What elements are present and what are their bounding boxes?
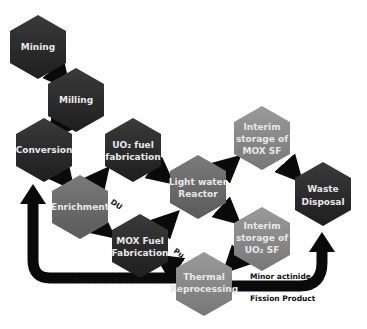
arrow-uo2-lwr (154, 168, 164, 176)
node-interim-storage-mox: Interim storage of MOX SF (234, 106, 290, 170)
label-fission-product: Fission Product (250, 294, 316, 303)
label-du: DU (109, 197, 124, 211)
svg-text:Milling: Milling (59, 95, 93, 105)
node-waste-disposal: Waste Disposal (295, 162, 351, 226)
svg-text:Interim: Interim (243, 221, 280, 231)
svg-text:Light water: Light water (169, 177, 228, 187)
svg-text:MOX SF: MOX SF (243, 146, 282, 156)
label-minor-actinide: Minor actinide (250, 272, 311, 281)
node-thermal-reprocessing: Thermal Reprocessing (170, 252, 238, 316)
node-light-water-reactor: Light water Reactor (169, 155, 228, 219)
svg-text:Thermal: Thermal (183, 272, 225, 282)
svg-text:Reactor: Reactor (178, 189, 218, 199)
label-pu: Pu (172, 246, 186, 260)
svg-text:UO₂ SF: UO₂ SF (245, 245, 280, 255)
svg-text:Waste: Waste (307, 184, 338, 194)
svg-text:Disposal: Disposal (301, 197, 344, 207)
node-interim-storage-uo2: Interim storage of UO₂ SF (234, 207, 290, 271)
arrow-interim-mox-waste (285, 163, 294, 173)
svg-text:storage of: storage of (236, 233, 288, 243)
node-uo2-fuel-fabrication: UO₂ fuel fabrication (105, 118, 161, 182)
svg-text:Mining: Mining (21, 42, 55, 52)
svg-text:Conversion: Conversion (16, 145, 73, 155)
svg-text:Enrichment: Enrichment (51, 202, 110, 212)
svg-text:Reprocessing: Reprocessing (170, 284, 238, 294)
svg-text:fabrication: fabrication (105, 152, 160, 162)
fuel-cycle-diagram: Mining Milling Conversion UO₂ fuel fabri… (0, 0, 367, 329)
svg-text:storage of: storage of (236, 134, 288, 144)
arrow-lwr-interim-uo2 (222, 208, 231, 216)
svg-text:MOX Fuel: MOX Fuel (116, 236, 164, 246)
recovered-uranium-arrowhead (20, 184, 46, 204)
svg-text:Interim: Interim (243, 122, 280, 132)
svg-text:UO₂ fuel: UO₂ fuel (112, 140, 154, 150)
svg-text:Fabrication: Fabrication (111, 248, 168, 258)
label-recovered-uranium: Recovered Uranium (74, 276, 157, 285)
node-mox-fuel-fabrication: MOX Fuel Fabrication (111, 214, 168, 278)
minor-actinide-arrowhead (309, 232, 335, 252)
